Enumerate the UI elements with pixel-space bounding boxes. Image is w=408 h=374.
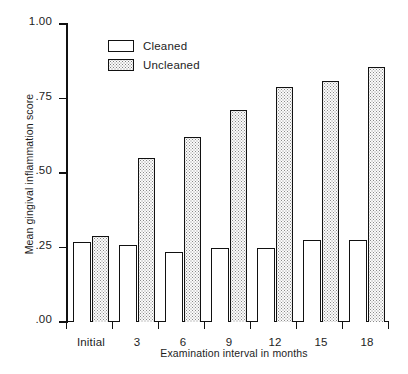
legend-swatch-uncleaned-icon [108,59,134,71]
bar-cleaned [119,245,137,322]
x-axis-tick [250,321,251,329]
bar-uncleaned [368,67,386,322]
x-axis-title: Examination interval in months [60,347,408,359]
x-axis-tick [296,321,297,329]
legend: Cleaned Uncleaned [108,38,200,76]
bar-uncleaned [138,158,156,322]
bar-uncleaned [322,81,340,322]
bar-uncleaned [92,236,110,322]
legend-label-uncleaned: Uncleaned [143,59,200,71]
y-axis-tick-label: .00 [35,313,52,325]
bar-cleaned [73,242,91,322]
bar-cleaned [257,248,275,323]
y-axis-title: Mean gingival inflammation score [23,49,35,299]
y-axis-tick-label: .75 [35,90,52,102]
bar-cleaned [165,252,183,322]
legend-item-uncleaned: Uncleaned [108,57,200,73]
bar-uncleaned [230,110,248,322]
y-axis-tick-label: .25 [35,239,52,251]
legend-swatch-cleaned-icon [108,40,134,52]
x-axis-tick [66,321,67,329]
y-axis-tick: 1.00 [59,23,68,24]
y-axis-tick-label: 1.00 [29,15,52,27]
bar-cleaned [211,248,229,323]
legend-item-cleaned: Cleaned [108,38,200,54]
gingival-inflammation-bar-chart: Mean gingival inflammation score .00.25.… [0,0,408,374]
y-axis-tick: .75 [59,98,68,99]
y-axis-tick-label: .50 [35,164,52,176]
x-axis-tick [388,321,389,329]
bar-cleaned [303,240,321,322]
x-axis-tick [112,321,113,329]
x-axis-tick [158,321,159,329]
y-axis-tick: .50 [59,172,68,173]
bar-uncleaned [276,87,294,322]
legend-label-cleaned: Cleaned [143,40,187,52]
x-axis-tick [204,321,205,329]
y-axis-tick: .25 [59,247,68,248]
bar-uncleaned [184,137,202,322]
bar-cleaned [349,240,367,322]
x-axis-tick [342,321,343,329]
